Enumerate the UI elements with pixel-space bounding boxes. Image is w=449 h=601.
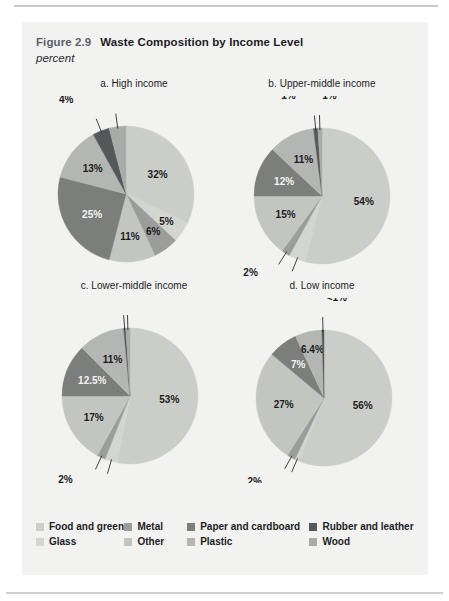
slice-label: 1% (322, 96, 337, 101)
label-leader-line (292, 458, 298, 472)
legend-item-plastic[interactable]: Plastic (187, 536, 309, 547)
page-title: Waste Composition by Income Level (100, 36, 303, 48)
label-leader-line (107, 459, 111, 474)
chart-title-b: b. Upper-middle income (222, 78, 422, 89)
legend-item-glass[interactable]: Glass (36, 536, 124, 547)
pie-chart-b: 54%4%2%15%12%11%1%1% (222, 96, 422, 281)
legend-swatch-icon (124, 523, 132, 531)
legend-item-paper-and-cardboard[interactable]: Paper and cardboard (187, 521, 309, 532)
slice-label: 6.4% (301, 344, 324, 355)
slice-label: 5% (159, 216, 174, 227)
slice-label: 25% (82, 209, 102, 220)
label-leader-line (96, 456, 102, 470)
pie-chart-a: 32%5%6%11%25%13%4%4% (34, 96, 234, 281)
pie-c: 53%3%2%17%12.5%11%<1%1% (34, 298, 234, 483)
figure-panel: Figure 2.9Waste Composition by Income Le… (22, 22, 428, 575)
chart-legend: Food and greenMetalPaper and cardboardRu… (36, 519, 422, 549)
slice-label: 54% (354, 196, 374, 207)
slice-label: 6% (146, 226, 161, 237)
slice-label: 2% (243, 267, 258, 278)
slice-label: 32% (148, 169, 168, 180)
legend-label: Glass (49, 536, 76, 547)
figure-number: Figure 2.9 (36, 36, 91, 48)
slice-label: 4% (59, 96, 74, 105)
chart-title-a: a. High income (34, 78, 234, 89)
legend-label: Wood (322, 536, 350, 547)
legend-swatch-icon (309, 523, 317, 531)
top-divider (14, 5, 438, 7)
bottom-divider (6, 592, 443, 594)
legend-swatch-icon (309, 538, 317, 546)
legend-label: Paper and cardboard (200, 521, 300, 532)
label-leader-line (314, 115, 315, 130)
legend-swatch-icon (124, 538, 132, 546)
legend-item-rubber-and-leather[interactable]: Rubber and leather (309, 521, 422, 532)
pie-chart-c: 53%3%2%17%12.5%11%<1%1% (34, 298, 234, 483)
label-leader-line (292, 257, 298, 271)
slice-label: 12.5% (78, 375, 106, 386)
slice-label: 13% (83, 163, 103, 174)
legend-label: Metal (137, 521, 163, 532)
slice-label: 27% (274, 399, 294, 410)
slice-label: 7% (291, 359, 306, 370)
slice-label: 11% (294, 154, 314, 165)
legend-item-other[interactable]: Other (124, 536, 187, 547)
legend-item-food-and-green[interactable]: Food and green (36, 521, 124, 532)
slice-label: 11% (120, 231, 140, 242)
label-leader-line (96, 119, 102, 133)
slice-label: 2% (247, 476, 262, 483)
legend-row: GlassOtherPlasticWood (36, 534, 422, 549)
slice-label: 56% (353, 400, 373, 411)
legend-row: Food and greenMetalPaper and cardboardRu… (36, 519, 422, 534)
figure-subtitle: percent (36, 52, 420, 64)
slice-label: 1% (128, 298, 143, 299)
slice-label: 2% (58, 474, 73, 483)
chart-title-c: c. Lower-middle income (34, 280, 234, 291)
legend-swatch-icon (36, 523, 44, 531)
chart-upper-middle-income: b. Upper-middle income 54%4%2%15%12%11%1… (222, 78, 422, 283)
figure-page: Figure 2.9Waste Composition by Income Le… (0, 0, 449, 601)
chart-low-income: d. Low income 56%1%2%27%7%6.4%<1% (222, 280, 422, 485)
slice-label: 53% (159, 394, 179, 405)
label-leader-line (124, 315, 125, 330)
slice-label: 15% (276, 209, 296, 220)
figure-header: Figure 2.9Waste Composition by Income Le… (36, 32, 420, 64)
legend-item-wood[interactable]: Wood (309, 536, 422, 547)
slice-label: 17% (84, 412, 104, 423)
legend-swatch-icon (36, 538, 44, 546)
legend-label: Rubber and leather (322, 521, 413, 532)
legend-label: Other (137, 536, 164, 547)
pie-b: 54%4%2%15%12%11%1%1% (222, 96, 422, 281)
legend-swatch-icon (187, 523, 195, 531)
pie-a: 32%5%6%11%25%13%4%4% (34, 96, 234, 281)
label-leader-line (285, 456, 292, 469)
pie-chart-d: 56%1%2%27%7%6.4%<1% (222, 298, 422, 483)
chart-title-d: d. Low income (222, 280, 422, 291)
legend-swatch-icon (187, 538, 195, 546)
legend-item-metal[interactable]: Metal (124, 521, 187, 532)
pie-d: 56%1%2%27%7%6.4%<1% (222, 298, 422, 483)
slice-label: 12% (274, 176, 294, 187)
label-leader-line (279, 252, 287, 265)
legend-label: Plastic (200, 536, 232, 547)
slice-label: 11% (103, 354, 123, 365)
label-leader-line (116, 114, 118, 129)
slice-label: <1% (79, 298, 99, 299)
legend-label: Food and green (49, 521, 124, 532)
chart-high-income: a. High income 32%5%6%11%25%13%4%4% (34, 78, 234, 283)
slice-label: <1% (327, 298, 347, 303)
chart-lower-middle-income: c. Lower-middle income 53%3%2%17%12.5%11… (34, 280, 234, 485)
slice-label: 1% (281, 96, 296, 101)
